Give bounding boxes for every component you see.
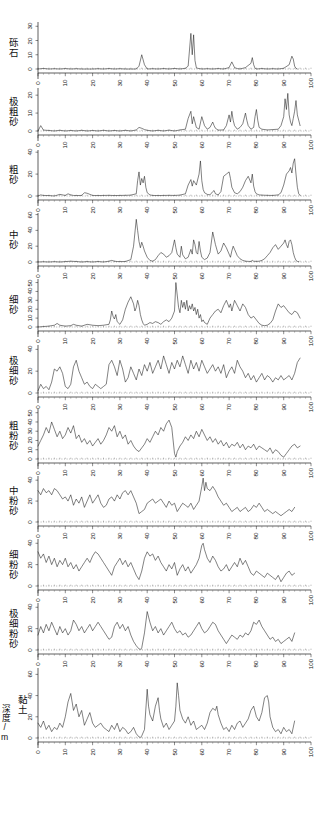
series-line [38, 33, 297, 69]
plot-area [0, 22, 329, 83]
series-line [38, 93, 300, 131]
series-line [38, 219, 299, 262]
plot-area [0, 150, 329, 210]
x-tick-label: 40 [141, 745, 153, 759]
plot-area [0, 476, 329, 536]
x-tick-label: 100 [305, 745, 317, 759]
x-tick-label: 80 [250, 745, 262, 759]
x-tick-label: 20 [87, 745, 99, 759]
plot-area [0, 409, 329, 473]
plot-area [0, 603, 329, 664]
x-tick-label: 70 [223, 745, 235, 759]
series-line [38, 420, 300, 457]
plot-area [0, 88, 329, 145]
series-line [38, 683, 295, 738]
x-axis-ticks: 0102030405060708090100 [0, 746, 329, 764]
series-line [38, 478, 295, 516]
grain-size-profile-figure: 砾石01020300102030405060708090100极粗砂010200… [0, 0, 329, 827]
series-line [38, 543, 295, 581]
x-tick-label: 30 [114, 745, 126, 759]
plot-area [0, 345, 329, 407]
x-tick-label: 90 [278, 745, 290, 759]
x-tick-label: 60 [196, 745, 208, 759]
x-tick-label: 10 [59, 745, 71, 759]
plot-area [0, 279, 329, 341]
plot-area [0, 668, 329, 752]
series-line [38, 283, 300, 327]
series-line [38, 159, 300, 196]
plot-area [0, 539, 329, 600]
series-line [38, 356, 300, 391]
plot-area [0, 213, 329, 276]
series-line [38, 612, 295, 650]
x-tick-label: 0 [32, 745, 44, 759]
x-tick-label: 50 [169, 745, 181, 759]
